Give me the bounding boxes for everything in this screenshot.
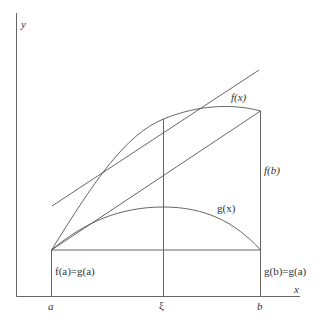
tangent-line [52,70,259,206]
fb-label: f(b) [264,165,280,176]
mean-value-theorem-diagram: y x a ξ b f(x) g(x) f(a)=g(a) f(b) g(b)=… [0,0,325,324]
secant-chord [52,111,261,250]
x-axis-label: x [294,284,299,295]
f-curve-label: f(x) [231,92,246,103]
tick-label-xi: ξ [159,300,164,311]
tick-label-b: b [257,301,263,312]
tick-label-a: a [48,301,54,312]
g-curve-label: g(x) [217,203,235,214]
gb-equals-ga-label: g(b)=g(a) [264,266,306,277]
y-axis-label: y [21,19,26,30]
fa-equals-ga-label: f(a)=g(a) [55,266,95,277]
